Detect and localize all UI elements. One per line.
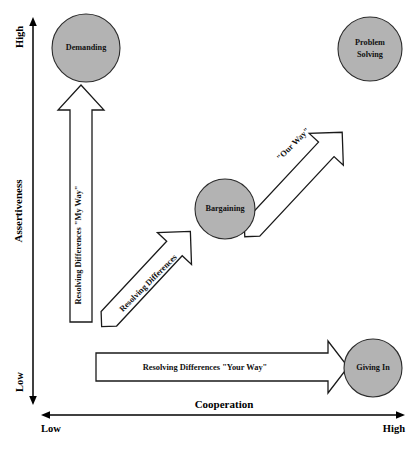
y-axis-title: Assertiveness [12, 179, 24, 243]
node-giving-in[interactable]: Giving In [344, 339, 402, 397]
diagram-canvas: High Assertiveness Low Cooperation Low H… [0, 0, 419, 450]
my-way-arrow-label: Resolving Differences "My Way" [74, 185, 83, 304]
node-bargaining[interactable]: Bargaining [195, 179, 255, 239]
problem-solving-label-line1: Problem [355, 38, 385, 47]
y-axis-low-label: Low [14, 372, 25, 392]
x-axis-low-label: Low [41, 423, 61, 434]
conflict-styles-diagram: High Assertiveness Low Cooperation Low H… [0, 0, 419, 450]
demanding-label: Demanding [66, 43, 107, 52]
y-axis-arrowhead-top [29, 17, 37, 26]
x-axis-high-label: High [383, 423, 405, 434]
y-axis-group: High Assertiveness Low [12, 17, 37, 405]
y-axis-arrowhead-bottom [29, 396, 37, 405]
arrow-my-way: Resolving Differences "My Way" [58, 85, 104, 322]
node-problem-solving[interactable]: Problem Solving [338, 17, 402, 81]
your-way-arrow-label: Resolving Differences "Your Way" [143, 363, 267, 372]
arrow-our-way: "Our Way" [241, 126, 345, 237]
problem-solving-label-line2: Solving [357, 50, 384, 59]
x-axis-group: Cooperation Low High [41, 398, 405, 434]
bargaining-label: Bargaining [205, 204, 245, 213]
arrow-your-way: Resolving Differences "Your Way" [96, 341, 348, 393]
y-axis-high-label: High [14, 26, 25, 48]
x-axis-title: Cooperation [195, 398, 254, 410]
node-demanding[interactable]: Demanding [52, 14, 120, 82]
arrow-shared: Resolving Differences [98, 231, 193, 326]
giving-in-label: Giving In [356, 363, 390, 372]
x-axis-arrowhead-left [41, 411, 50, 419]
x-axis-arrowhead-right [396, 411, 405, 419]
